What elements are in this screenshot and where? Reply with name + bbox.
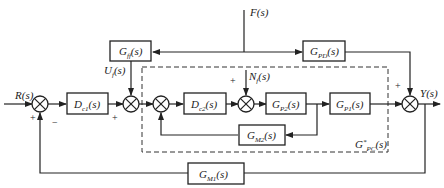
label-inner-disturbance: Nf(s) — [248, 70, 270, 85]
summing-junction-4 — [238, 96, 254, 112]
label-disturbance: F(s) — [249, 6, 269, 19]
summing-junction-3 — [153, 96, 169, 112]
sign-sum1-reference: + — [30, 112, 36, 123]
cascade-feedforward-block-diagram: Dc1(s) Dc2(s) GP2(s) GP1(s) GM2(s) GM1(s… — [0, 0, 444, 188]
label-dashed-region: G*PC(s) — [355, 138, 387, 153]
sign-sum5-disturbance: + — [395, 80, 401, 91]
label-reference: R(s) — [14, 89, 34, 102]
wire-inner-feedback — [161, 113, 238, 135]
label-output: Y(s) — [420, 87, 438, 100]
summing-junction-1 — [32, 96, 48, 112]
sign-sum1-feedback: − — [52, 117, 58, 128]
block-gp2: GP2(s) — [266, 93, 306, 114]
block-gm1: GM1(s) — [188, 163, 244, 184]
label-feedforward-control: Uf(s) — [104, 64, 126, 79]
block-gpd: GPD(s) — [303, 41, 345, 61]
block-dc2: Dc2(s) — [184, 93, 226, 114]
block-dc1: Dc1(s) — [67, 93, 108, 114]
sign-sum2-controller: + — [112, 112, 118, 123]
summing-junction-5 — [402, 96, 418, 112]
sign-sum4-disturbance: + — [230, 75, 236, 86]
block-gff: Gff(s) — [110, 41, 151, 61]
block-gm2: GM2(s) — [239, 125, 285, 145]
summing-junction-2 — [123, 96, 139, 112]
block-gp1: GP1(s) — [330, 93, 370, 114]
